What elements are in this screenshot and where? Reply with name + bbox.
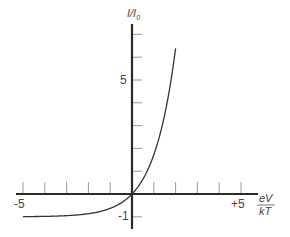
x-axis-label: eV kT bbox=[257, 192, 275, 217]
iv-characteristic-chart: I/I0 5 -1 -5 +5 eV kT bbox=[0, 0, 290, 237]
x-tick-label-plus-5: +5 bbox=[231, 197, 245, 211]
y-tick-label-5: 5 bbox=[120, 73, 127, 87]
y-axis-label: I/I0 bbox=[127, 7, 140, 21]
x-axis-label-denominator: kT bbox=[259, 205, 273, 217]
x-tick-label-minus-5: -5 bbox=[14, 197, 25, 211]
y-axis-label-sub: 0 bbox=[136, 14, 140, 21]
diode-curve bbox=[23, 48, 176, 216]
y-axis-label-main: I/I bbox=[127, 7, 136, 19]
y-tick-label-minus-1: -1 bbox=[118, 209, 129, 223]
x-axis-label-numerator: eV bbox=[259, 192, 274, 204]
